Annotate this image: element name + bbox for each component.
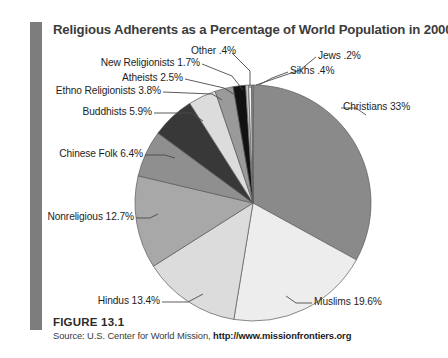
- label-sikhs: Sikhs .4%: [290, 65, 334, 76]
- figure-caption: FIGURE 13.1 Source: U.S. Center for Worl…: [53, 316, 443, 341]
- label-new-religionists: New Religionists 1.7%: [60, 57, 200, 68]
- leader-line-sikhs: [259, 72, 288, 85]
- figure-container: Religious Adherents as a Percentage of W…: [0, 0, 448, 358]
- label-other: Other .4%: [128, 45, 236, 56]
- pie-slice-group: [135, 85, 371, 321]
- label-jews: Jews .2%: [318, 50, 361, 61]
- figure-number: FIGURE 13.1: [53, 316, 443, 328]
- label-muslims: Muslims 19.6%: [314, 296, 382, 307]
- label-chinese-folk: Chinese Folk 6.4%: [36, 148, 143, 159]
- label-buddhists: Buddhists 5.9%: [44, 106, 152, 117]
- label-atheists: Atheists 2.5%: [60, 72, 183, 83]
- label-christians: Christians 33%: [343, 101, 410, 112]
- source-url-link[interactable]: http://www.missionfrontiers.org: [213, 330, 351, 341]
- leader-line-other: [232, 53, 250, 88]
- label-ethno-religionists: Ethno Religionists 3.8%: [22, 85, 161, 96]
- source-line: Source: U.S. Center for World Mission, h…: [53, 330, 443, 341]
- label-hindus: Hindus 13.4%: [62, 295, 160, 306]
- label-nonreligious: Nonreligious 12.7%: [19, 211, 134, 222]
- source-prefix: Source: U.S. Center for World Mission,: [53, 330, 211, 341]
